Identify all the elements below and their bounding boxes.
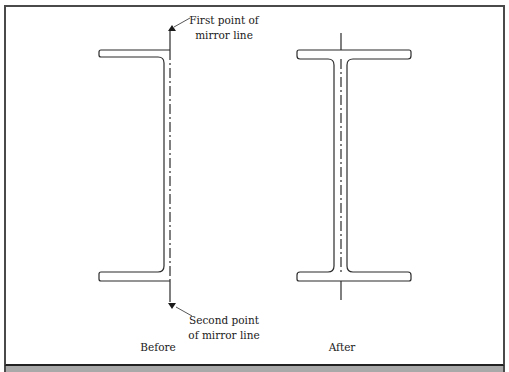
before-half-beam (99, 50, 170, 281)
first-point-line1: First point of (188, 13, 260, 28)
second-point-arrow-icon (168, 303, 176, 309)
second-point-line1: Second point (188, 313, 260, 328)
after-full-beam (297, 50, 411, 281)
second-point-line2: of mirror line (188, 328, 260, 343)
caption-after: After (312, 340, 372, 355)
caption-before: Before (128, 340, 188, 355)
second-point-annotation: Second point of mirror line (188, 313, 260, 343)
first-point-annotation: First point of mirror line (188, 13, 260, 43)
first-point-line2: mirror line (188, 28, 260, 43)
first-point-arrow-icon (168, 25, 176, 31)
